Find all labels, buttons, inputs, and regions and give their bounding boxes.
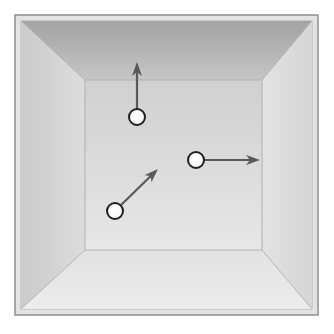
perspective-box-scene: [0, 0, 334, 334]
particle-rightward[interactable]: [188, 152, 204, 168]
particle-diagonal[interactable]: [107, 203, 123, 219]
figure-root: [0, 0, 334, 334]
wall-back: [85, 80, 262, 250]
particle-upward[interactable]: [129, 109, 145, 125]
